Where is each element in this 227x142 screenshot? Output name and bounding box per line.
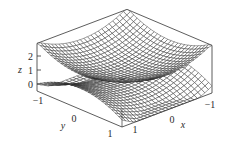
z-axis-label: z xyxy=(17,64,22,75)
y-axis-label: y xyxy=(60,120,66,131)
x-tick-1: 1 xyxy=(133,124,138,135)
y-tick-0: 0 xyxy=(72,113,77,124)
y-axis: −1 0 1 y xyxy=(33,95,113,139)
x-tick-0: 0 xyxy=(170,114,175,125)
surface-plot: 2 1 0 z −1 0 1 y 1 0 −1 x xyxy=(0,0,227,142)
z-tick-0: 0 xyxy=(28,79,33,90)
surface-mesh xyxy=(37,9,212,121)
x-axis-label: x xyxy=(180,119,186,130)
y-tick-1: 1 xyxy=(108,128,113,139)
x-tick-minus1: −1 xyxy=(205,99,216,110)
z-tick-2: 2 xyxy=(28,51,33,62)
z-tick-1: 1 xyxy=(28,65,33,76)
z-axis: 2 1 0 z xyxy=(17,51,41,90)
y-tick-minus1: −1 xyxy=(33,95,44,106)
